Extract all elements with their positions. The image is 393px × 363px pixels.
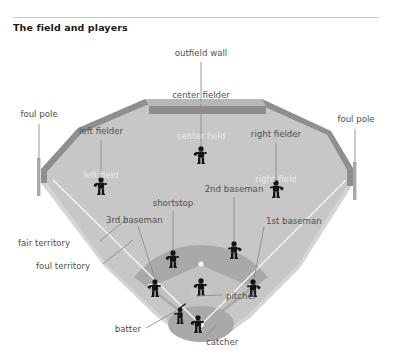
label-right-fielder: right fielder [251, 129, 302, 139]
label-right-field: right field [255, 174, 296, 184]
label-fair-territory: fair territory [18, 238, 70, 248]
foul-pole-right [353, 162, 356, 200]
label-second-baseman: 2nd baseman [205, 184, 264, 194]
label-outfield-wall: outfield wall [175, 48, 227, 58]
outfield-wall [145, 99, 266, 114]
label-foul-territory: foul territory [36, 261, 90, 271]
label-foul-pole-left: foul pole [20, 109, 57, 119]
label-foul-pole-right: foul pole [337, 114, 374, 124]
label-center-field: center field [177, 131, 226, 141]
label-left-fielder: left fielder [79, 126, 123, 136]
label-catcher: catcher [206, 337, 239, 347]
page-title: The field and players [13, 22, 128, 33]
label-shortstop: shortstop [153, 198, 194, 208]
label-left-field: left field [83, 170, 118, 180]
label-pitcher: pitcher [226, 291, 257, 301]
label-center-fielder: center fielder [172, 90, 230, 100]
label-first-baseman: 1st baseman [266, 216, 322, 226]
baseball-field-diagram: outfield wall foul pole foul pole center… [0, 36, 393, 363]
header-divider [13, 17, 379, 18]
outfield-wall-top-face [145, 99, 266, 106]
foul-pole-left [37, 158, 40, 196]
figure-page: The field and players [0, 0, 393, 363]
outfield-wall-front-face [149, 106, 266, 114]
second-base [198, 261, 203, 266]
label-third-baseman: 3rd baseman [106, 215, 163, 225]
label-batter: batter [115, 324, 142, 334]
